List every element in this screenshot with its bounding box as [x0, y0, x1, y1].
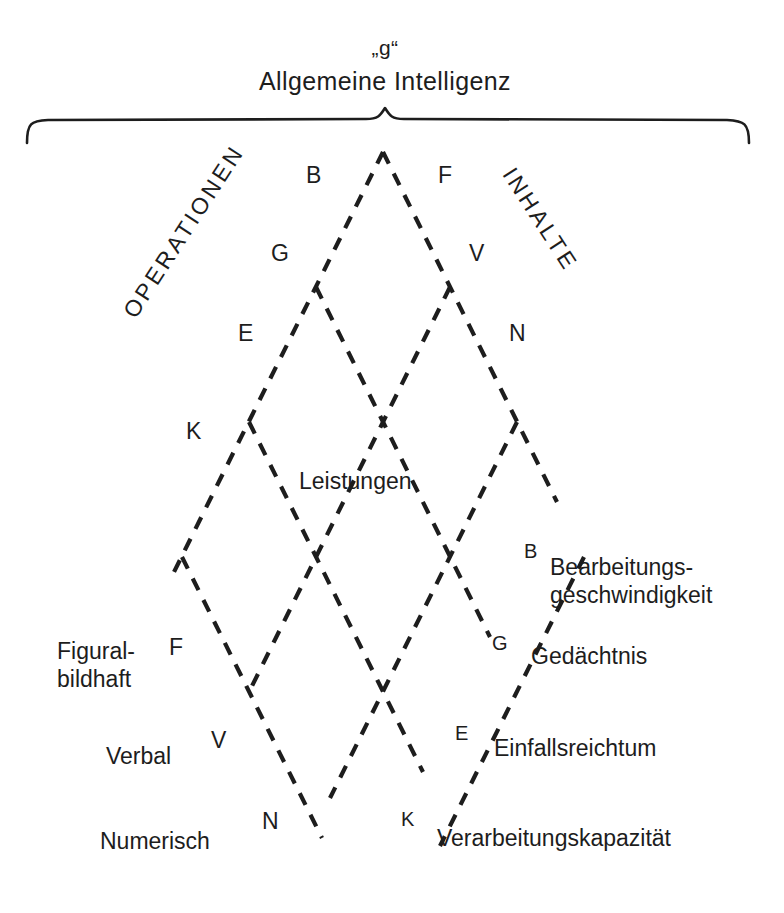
term-verbal: Verbal	[106, 743, 171, 770]
node-letter-n-top: N	[509, 320, 526, 347]
node-letter-k-right: K	[401, 808, 414, 832]
center-label-leistungen: Leistungen	[299, 468, 412, 495]
term-einfallsreichtum: Einfallsreichtum	[494, 735, 656, 762]
node-letter-b-top: B	[306, 162, 321, 189]
term-verarbeitungskapazitaet: Verarbeitungskapazität	[437, 825, 671, 852]
node-letter-g-right: G	[492, 632, 508, 656]
page-title-g: „g“	[285, 36, 485, 61]
node-letter-g-top: G	[271, 240, 289, 267]
term-figural-line1: Figural-	[57, 638, 135, 664]
page-title-full: Allgemeine Intelligenz	[155, 67, 615, 97]
node-letter-k-top: K	[186, 418, 201, 445]
term-gedaechtnis: Gedächtnis	[531, 643, 647, 670]
figure-canvas: „g“ Allgemeine Intelligenz OPERATIONEN I…	[0, 0, 784, 913]
term-figural-bildhaft: Figural-bildhaft	[57, 637, 135, 693]
node-letter-e-top: E	[238, 320, 253, 347]
lattice-svg	[0, 0, 784, 913]
node-letter-v-left: V	[211, 727, 226, 754]
term-bearbeitungs-line2: geschwindigkeit	[550, 582, 712, 608]
node-letter-b-right: B	[524, 540, 537, 564]
top-curly-brace	[27, 108, 749, 143]
node-letter-e-right: E	[455, 722, 468, 746]
term-numerisch: Numerisch	[100, 828, 210, 855]
node-letter-f-left: F	[169, 634, 183, 661]
term-bearbeitungsgeschwindigkeit: Bearbeitungs-geschwindigkeit	[550, 553, 712, 609]
term-bearbeitungs-line1: Bearbeitungs-	[550, 554, 693, 580]
node-letter-v-top: V	[469, 240, 484, 267]
term-figural-line2: bildhaft	[57, 666, 131, 692]
node-letter-n-left: N	[262, 808, 279, 835]
node-letter-f-top: F	[438, 162, 452, 189]
